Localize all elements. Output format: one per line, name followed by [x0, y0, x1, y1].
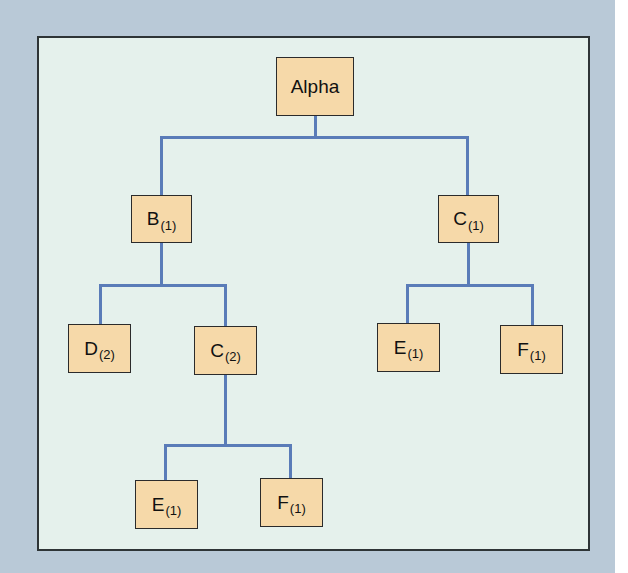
edge-c2-to-e1 [164, 444, 167, 481]
node-subscript: (1) [468, 218, 484, 233]
edge-c1-to-e1 [406, 284, 409, 324]
node-f1-bottom: F(1) [260, 478, 323, 527]
node-subscript: (2) [225, 349, 241, 364]
edge-root-to-c1 [466, 136, 469, 196]
edge-c1-to-f1 [531, 284, 534, 326]
node-label: C [453, 208, 467, 230]
node-label: E [152, 494, 165, 516]
edge-b1-stem [160, 242, 163, 286]
node-subscript: (2) [99, 347, 115, 362]
edge-c1-bar [406, 284, 534, 287]
node-label: E [394, 337, 407, 359]
node-subscript: (1) [530, 348, 546, 363]
edge-c2-stem [224, 373, 227, 446]
node-label: D [84, 338, 98, 360]
node-c1: C(1) [438, 195, 499, 243]
node-b1: B(1) [131, 195, 192, 243]
node-label: C [210, 340, 224, 362]
edge-b1-to-d2 [99, 284, 102, 325]
edge-c1-stem [467, 242, 470, 286]
edge-c2-bar [164, 444, 292, 447]
edge-c2-to-f1 [289, 444, 292, 479]
node-d2: D(2) [68, 324, 131, 373]
edge-root-stem [314, 115, 317, 138]
node-e1-bottom: E(1) [135, 480, 198, 529]
node-label: F [517, 339, 529, 361]
edge-b1-bar [99, 284, 227, 287]
edge-root-to-b1 [160, 136, 163, 196]
node-f1-right: F(1) [500, 325, 563, 374]
node-alpha: Alpha [276, 57, 354, 116]
node-label: F [277, 492, 289, 514]
node-subscript: (1) [160, 218, 176, 233]
node-subscript: (1) [165, 503, 181, 518]
edge-root-bar [160, 136, 469, 139]
edge-b1-to-c2 [224, 284, 227, 327]
node-subscript: (1) [290, 501, 306, 516]
node-e1-right: E(1) [377, 323, 440, 372]
node-label: B [147, 208, 160, 230]
node-subscript: (1) [407, 346, 423, 361]
node-label: Alpha [291, 76, 340, 98]
node-c2: C(2) [194, 326, 257, 375]
